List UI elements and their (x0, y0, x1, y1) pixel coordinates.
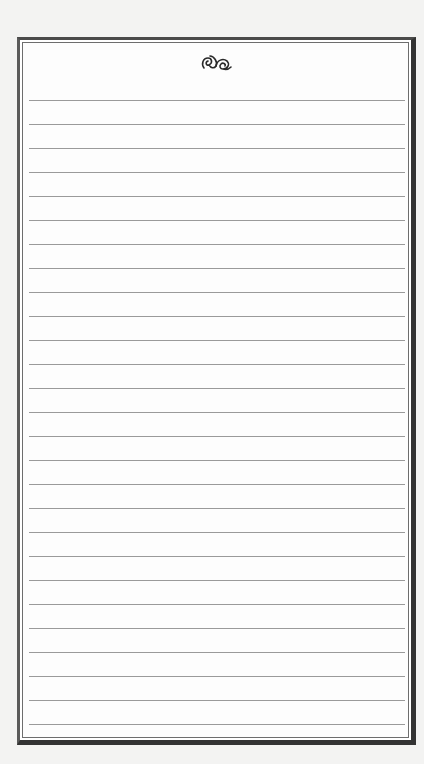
ruled-line (29, 652, 405, 653)
ruled-line (29, 100, 405, 101)
ruled-line (29, 292, 405, 293)
ruled-line (29, 340, 405, 341)
ruled-line (29, 436, 405, 437)
ruled-line (29, 724, 405, 725)
ruled-line (29, 316, 405, 317)
ruled-line (29, 268, 405, 269)
ruled-line (29, 220, 405, 221)
ruled-line (29, 508, 405, 509)
ruled-line (29, 484, 405, 485)
ruled-line (29, 148, 405, 149)
ruled-line (29, 124, 405, 125)
ruled-line (29, 172, 405, 173)
notepaper-frame (17, 37, 416, 745)
ruled-line (29, 364, 405, 365)
ruled-line (29, 532, 405, 533)
ruled-line (29, 676, 405, 677)
fleuron-ornament-icon (23, 49, 408, 74)
notepaper-inner-border (22, 42, 409, 738)
ruled-line (29, 244, 405, 245)
ruled-line (29, 196, 405, 197)
ruled-line (29, 388, 405, 389)
ruled-line (29, 628, 405, 629)
ruled-line (29, 700, 405, 701)
ruled-line (29, 604, 405, 605)
ruled-line (29, 412, 405, 413)
ruled-line (29, 580, 405, 581)
ruled-line (29, 556, 405, 557)
ruled-line (29, 460, 405, 461)
